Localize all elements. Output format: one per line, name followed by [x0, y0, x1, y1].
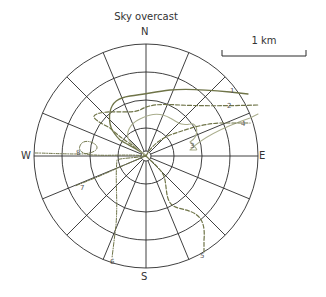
scale-bar: [222, 50, 306, 56]
trajectory-4: [146, 123, 250, 156]
polar-diagram: 1 2 3 4 5 6 7 8: [0, 0, 326, 297]
trajectory-3-label: 3: [190, 142, 194, 150]
trajectory-5-label: 5: [200, 252, 204, 260]
grid-spoke: [67, 77, 143, 153]
grid-spoke: [148, 161, 189, 260]
trajectory-6-label: 6: [110, 258, 115, 266]
grid-spoke: [148, 53, 189, 152]
grid-spoke: [103, 161, 144, 260]
trajectory-2-label: 2: [227, 102, 231, 110]
grid-spoke: [151, 158, 250, 199]
trajectory-1-label: 1: [230, 87, 234, 95]
grid-spoke: [151, 113, 250, 154]
trajectory-4-label: 4: [241, 120, 246, 128]
trajectory-6: [112, 156, 146, 258]
trajectory-7-label: 7: [80, 184, 84, 192]
grid-spoke: [43, 113, 142, 154]
trajectory-2: [94, 105, 258, 156]
trajectories: 1 2 3 4 5 6 7 8: [35, 87, 258, 266]
trajectory-8-label: 8: [76, 149, 80, 157]
grid-spoke: [103, 53, 144, 152]
grid-spoke: [67, 160, 143, 236]
